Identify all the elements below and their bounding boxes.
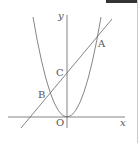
y-axis-label: y	[57, 10, 64, 21]
x-axis-label: x	[120, 117, 126, 128]
point-c-label: C	[56, 67, 64, 78]
point-b-label: B	[38, 89, 45, 100]
coordinate-diagram: y x O A B C	[0, 0, 140, 143]
point-a-label: A	[97, 38, 106, 49]
straight-line	[21, 19, 112, 128]
origin-label: O	[56, 117, 64, 128]
